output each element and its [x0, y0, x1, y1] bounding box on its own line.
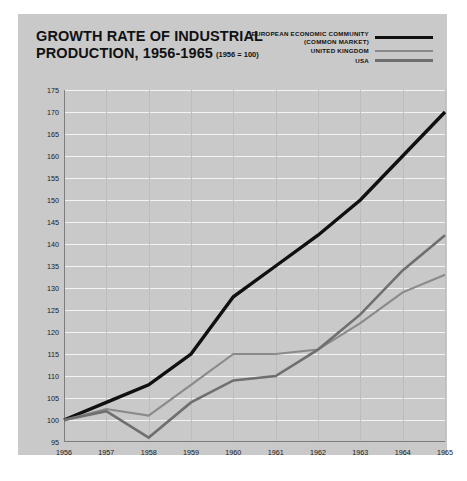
y-axis-tick-label: 115 — [48, 350, 59, 359]
y-axis-tick-label: 145 — [47, 218, 59, 227]
y-axis-tick-label: 95 — [51, 438, 59, 447]
y-axis-tick-label: 120 — [47, 328, 59, 337]
series-line — [64, 275, 445, 420]
y-axis-tick-label: 130 — [47, 284, 59, 293]
gridline-vertical — [445, 90, 446, 442]
y-axis-tick-label: 135 — [47, 262, 59, 271]
legend-swatch — [375, 59, 433, 62]
y-axis-tick-label: 140 — [47, 240, 59, 249]
y-axis-tick-label: 175 — [47, 86, 59, 95]
legend-label: USA — [355, 57, 369, 65]
chart-card: GROWTH RATE OF INDUSTRIAL PRODUCTION, 19… — [18, 14, 447, 455]
legend-item: EUROPEAN ECONOMIC COMMUNITY (COMMON MARK… — [233, 30, 433, 45]
y-axis-tick-label: 100 — [47, 416, 59, 425]
x-axis-tick-label: 1965 — [437, 448, 453, 457]
x-axis-tick-label: 1956 — [56, 448, 72, 457]
y-axis-tick-label: 105 — [47, 394, 59, 403]
y-axis-tick-label: 155 — [47, 174, 59, 183]
legend-label: EUROPEAN ECONOMIC COMMUNITY (COMMON MARK… — [252, 30, 369, 45]
legend-swatch — [375, 50, 433, 52]
y-axis-tick-label: 170 — [47, 108, 59, 117]
series-lines — [64, 90, 445, 442]
x-axis-tick-label: 1958 — [141, 448, 157, 457]
x-axis-tick-label: 1962 — [310, 448, 326, 457]
series-line — [64, 112, 445, 420]
series-line — [64, 235, 445, 437]
title-line-2-text: PRODUCTION, 1956-1965 — [36, 45, 213, 61]
plot-area: 1751701651601551501451401351301251201151… — [64, 90, 445, 442]
legend-label: UNITED KINGDOM — [311, 47, 369, 55]
x-axis-tick-label: 1963 — [352, 448, 368, 457]
x-axis-tick-label: 1964 — [395, 448, 411, 457]
y-axis-tick-label: 150 — [47, 196, 59, 205]
legend-item: USA — [233, 57, 433, 65]
x-axis-tick-label: 1957 — [98, 448, 114, 457]
legend-item: UNITED KINGDOM — [233, 47, 433, 55]
x-axis-tick-label: 1959 — [183, 448, 199, 457]
legend: EUROPEAN ECONOMIC COMMUNITY (COMMON MARK… — [233, 30, 433, 66]
x-axis-tick-label: 1961 — [268, 448, 284, 457]
y-axis-tick-label: 110 — [48, 372, 59, 381]
x-axis-tick-label: 1960 — [225, 448, 241, 457]
legend-swatch — [375, 36, 433, 39]
y-axis-tick-label: 165 — [47, 130, 59, 139]
y-axis-tick-label: 125 — [47, 306, 59, 315]
y-axis-tick-label: 160 — [47, 152, 59, 161]
